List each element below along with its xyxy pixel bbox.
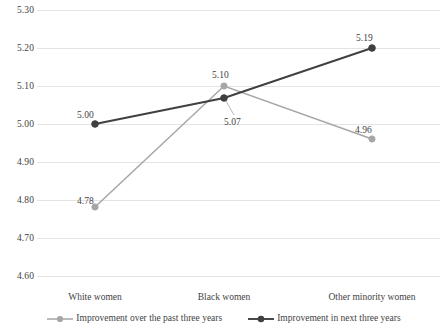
legend-item-improvement-past[interactable]: Improvement over the past three years xyxy=(47,313,222,324)
x-axis-category-other-minority-women: Other minority women xyxy=(312,292,432,303)
legend-marker-past-icon xyxy=(47,314,73,324)
legend-label-improvement-past: Improvement over the past three years xyxy=(76,313,222,324)
chart-legend: Improvement over the past three years Im… xyxy=(0,313,448,324)
x-axis-category-black-women: Black women xyxy=(164,292,284,303)
label-leader-lines xyxy=(226,101,234,115)
legend-marker-next-icon xyxy=(248,314,274,324)
gridlines xyxy=(37,11,440,277)
line-chart: 5.30 5.20 5.10 5.00 4.90 4.80 4.70 4.60 xyxy=(0,0,448,334)
plot-area xyxy=(0,0,448,334)
series-improvement-past xyxy=(92,83,375,210)
data-label-past-other: 4.96 xyxy=(355,125,372,135)
legend-item-improvement-next[interactable]: Improvement in next three years xyxy=(248,313,400,324)
data-label-past-white: 4.78 xyxy=(77,196,94,206)
data-label-past-black: 5.10 xyxy=(212,70,229,80)
data-label-next-white: 5.00 xyxy=(77,110,94,120)
x-axis-category-white-women: White women xyxy=(35,292,155,303)
data-label-next-black: 5.07 xyxy=(224,117,241,127)
legend-label-improvement-next: Improvement in next three years xyxy=(277,313,400,324)
data-label-next-other: 5.19 xyxy=(356,33,373,43)
